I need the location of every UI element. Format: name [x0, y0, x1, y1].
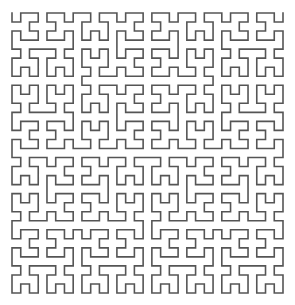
- background: [0, 0, 295, 305]
- diagram-canvas: [0, 0, 295, 305]
- curve-svg: [0, 0, 295, 305]
